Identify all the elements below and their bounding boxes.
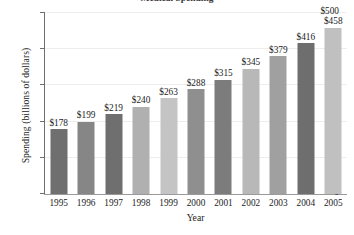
chart-title: Medical Spending [0, 0, 354, 3]
bar-slot: $315 [210, 13, 237, 194]
bar-value-label: $345 [242, 57, 261, 67]
x-axis-tick-label: 2003 [265, 198, 292, 208]
y-axis-title: Spending (billions of dollars) [20, 21, 31, 191]
bar-slot: $199 [72, 13, 99, 194]
x-axis-tick-label: 2000 [182, 198, 209, 208]
y-axis-tick-mark [40, 121, 44, 122]
bar-slot: $416 [292, 13, 319, 194]
bar[interactable] [187, 89, 204, 193]
y-axis-tick-mark [40, 48, 44, 49]
x-axis-tick-label: 1998 [127, 198, 154, 208]
bar[interactable] [270, 56, 287, 193]
x-axis-tick-label: 2002 [237, 198, 264, 208]
bar-slot: $263 [155, 13, 182, 194]
bar-value-label: $416 [297, 32, 316, 42]
bar[interactable] [105, 114, 122, 193]
bar[interactable] [133, 107, 150, 194]
bar-value-label: $199 [77, 110, 96, 120]
x-axis-tick-label: 1995 [45, 198, 72, 208]
bar[interactable] [297, 43, 314, 194]
bar-value-label: $379 [269, 45, 288, 55]
bar-value-label: $288 [187, 78, 206, 88]
bar[interactable] [78, 122, 95, 194]
bar-value-label: $263 [159, 87, 178, 97]
bar-slot: $288 [182, 13, 209, 194]
bar-slot: $379 [265, 13, 292, 194]
bar-series: $178$199$219$240$263$288$315$345$379$416… [45, 13, 347, 194]
x-axis-tick-label: 1997 [100, 198, 127, 208]
bar-slot: $219 [100, 13, 127, 194]
bar[interactable] [50, 129, 67, 193]
bar-value-label: $458 [324, 16, 343, 26]
bar-slot: $240 [127, 13, 154, 194]
bar-value-label: $315 [214, 68, 233, 78]
bar-slot: $178 [45, 13, 72, 194]
bar-chart-figure: Medical Spending Spending (billions of d… [0, 0, 354, 235]
bar-slot: $345 [237, 13, 264, 194]
x-axis-tick-label: 2001 [210, 198, 237, 208]
x-axis-tick-label: 2004 [292, 198, 319, 208]
y-axis-tick-mark [40, 84, 44, 85]
y-axis-tick-mark [40, 193, 44, 194]
bar-slot: $458 [320, 13, 347, 194]
x-axis-tick-label: 1996 [72, 198, 99, 208]
bar[interactable] [325, 28, 342, 194]
plot-area: 0100200300400$500 $178$199$219$240$263$2… [44, 12, 347, 195]
bar-value-label: $219 [104, 103, 123, 113]
bar[interactable] [160, 98, 177, 193]
x-axis-title: Year [44, 212, 347, 223]
bar[interactable] [215, 80, 232, 194]
bar[interactable] [242, 69, 259, 194]
y-axis-tick-mark [40, 12, 44, 13]
x-axis-tick-label: 2005 [320, 198, 347, 208]
x-axis-tick-label: 1999 [155, 198, 182, 208]
bar-value-label: $178 [49, 118, 68, 128]
y-axis-tick-mark [40, 157, 44, 158]
bar-value-label: $240 [132, 95, 151, 105]
